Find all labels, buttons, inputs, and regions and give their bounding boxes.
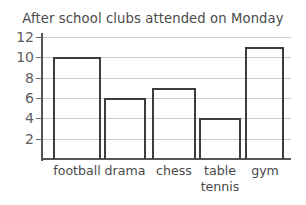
x-tick-label-chess: chess [148,163,200,179]
bar-gym [245,47,284,159]
chart-title: After school clubs attended on Monday [0,11,306,26]
y-tick-label-8: 8 [8,71,34,85]
gridline-12 [42,37,291,38]
y-tick-label-10: 10 [8,50,34,64]
y-tick-mark-12 [36,37,42,38]
y-tick-mark-10 [36,57,42,58]
bar-chart: After school clubs attended on Monday 12… [0,0,306,205]
x-tick-label-drama: drama [98,163,152,179]
bar-drama [104,98,146,159]
bar-football [53,57,101,159]
y-tick-label-2: 2 [8,132,34,146]
y-tick-mark-4 [36,118,42,119]
y-tick-mark-2 [36,139,42,140]
y-tick-mark-8 [36,78,42,79]
bar-table-tennis [199,118,241,159]
x-tick-label-table-tennis: table tennis [194,163,246,195]
y-axis-line [41,33,43,161]
x-tick-label-gym: gym [242,163,288,179]
y-tick-mark-6 [36,98,42,99]
y-tick-label-6: 6 [8,91,34,105]
y-tick-label-12: 12 [8,30,34,44]
bar-chess [152,88,196,159]
y-tick-label-4: 4 [8,111,34,125]
